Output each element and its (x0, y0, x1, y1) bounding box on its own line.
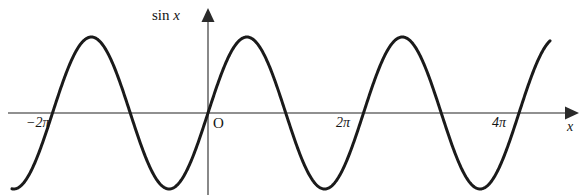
x-tick-label-neg-2pi: −2π (26, 116, 49, 130)
x-tick-label-2pi: 2π (336, 116, 350, 130)
sine-function-figure: sin x O −2π 2π 4π x (0, 0, 586, 195)
y-axis-label-prefix: sin (152, 7, 170, 23)
x-tick-label-4pi: 4π (492, 116, 506, 130)
plot-canvas (0, 0, 586, 195)
y-axis-label: sin x (152, 8, 180, 23)
y-axis-label-variable: x (173, 7, 180, 23)
x-axis-arrowhead (565, 107, 579, 120)
y-axis-arrowhead (202, 8, 215, 22)
origin-label: O (213, 116, 224, 131)
x-axis-label: x (567, 120, 573, 134)
